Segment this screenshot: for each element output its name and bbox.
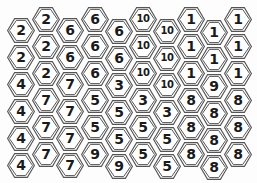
hex-cell-number: 6 [56,45,84,70]
hex-cell-number: 7 [56,99,84,124]
hex-cell[interactable]: 2 [7,45,35,70]
hex-cell[interactable]: 1 [224,61,252,86]
hex-cell-number: 2 [7,18,35,43]
hex-cell-number: 2 [7,45,35,70]
hex-cell[interactable]: 1 [224,34,252,59]
hex-cell[interactable]: 8 [224,115,252,140]
hex-cell-number: 1 [224,61,252,86]
hex-cell-number: 1 [224,34,252,59]
hex-cell[interactable]: 4 [7,72,35,97]
hex-cell[interactable]: 8 [224,142,252,167]
hex-cell-number: 8 [224,88,252,113]
hex-cell[interactable]: 4 [7,153,35,178]
hex-cell[interactable]: 7 [56,153,84,178]
hex-cell-number: 7 [56,72,84,97]
hex-cell-number: 8 [224,142,252,167]
hex-cell[interactable]: 2 [7,18,35,43]
hex-cell-number: 7 [56,153,84,178]
hex-cell-number: 1 [224,7,252,32]
hex-cell[interactable]: 6 [56,45,84,70]
hex-grid-board: 2244442227776677776665596635591010103551… [0,0,257,183]
hex-cell-number: 7 [56,126,84,151]
hex-cell[interactable]: 7 [56,126,84,151]
hex-cell[interactable]: 1 [224,7,252,32]
hex-cell-number: 8 [224,115,252,140]
hex-cell[interactable]: 4 [7,99,35,124]
hex-cell-number: 4 [7,72,35,97]
hex-cell-number: 4 [7,99,35,124]
hex-cell[interactable]: 7 [56,99,84,124]
hex-cell-number: 4 [7,126,35,151]
hex-cell-number: 4 [7,153,35,178]
hex-cell[interactable]: 7 [56,72,84,97]
hex-cell-number: 6 [56,18,84,43]
hex-cell[interactable]: 8 [224,88,252,113]
hex-cell[interactable]: 6 [56,18,84,43]
hex-cell[interactable]: 4 [7,126,35,151]
